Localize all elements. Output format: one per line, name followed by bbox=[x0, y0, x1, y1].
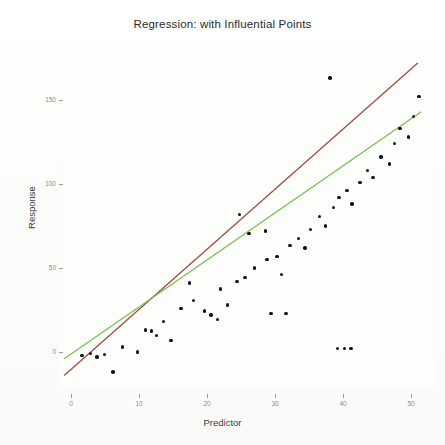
data-point bbox=[209, 313, 212, 316]
y-tick-label: 0 bbox=[26, 348, 56, 355]
x-tick-label: 20 bbox=[194, 400, 220, 407]
regression-line-ols-with-influential bbox=[64, 63, 418, 375]
data-point bbox=[111, 370, 114, 373]
y-tick-mark bbox=[59, 184, 63, 185]
x-tick-label: 40 bbox=[330, 400, 356, 407]
data-point bbox=[219, 287, 222, 290]
data-point bbox=[235, 280, 238, 283]
chart-figure: Regression: with Influential Points Resp… bbox=[0, 0, 445, 445]
data-point bbox=[95, 355, 98, 358]
data-point bbox=[388, 162, 391, 165]
y-tick-label: 150 bbox=[26, 96, 56, 103]
x-tick-label: 10 bbox=[126, 400, 152, 407]
regression-line-ols-robust bbox=[64, 112, 421, 359]
x-tick-mark bbox=[275, 394, 276, 398]
data-point bbox=[216, 318, 219, 321]
data-point bbox=[243, 276, 246, 279]
data-point bbox=[253, 266, 256, 269]
x-tick-mark bbox=[411, 394, 412, 398]
data-point bbox=[324, 224, 327, 227]
data-point bbox=[358, 181, 361, 184]
regression-lines bbox=[64, 63, 421, 375]
data-point bbox=[303, 246, 306, 249]
data-point bbox=[284, 312, 287, 315]
data-point bbox=[150, 329, 153, 332]
x-tick-mark bbox=[207, 394, 208, 398]
data-point bbox=[265, 258, 268, 261]
data-point bbox=[337, 196, 340, 199]
data-point bbox=[247, 232, 250, 235]
x-axis-label: Predictor bbox=[0, 417, 445, 428]
x-tick-label: 50 bbox=[398, 400, 424, 407]
data-point bbox=[309, 228, 312, 231]
data-point bbox=[136, 350, 139, 353]
y-tick-label: 50 bbox=[26, 264, 56, 271]
data-point bbox=[350, 202, 353, 205]
y-tick-label: 100 bbox=[26, 180, 56, 187]
data-point bbox=[203, 309, 206, 312]
data-point bbox=[328, 76, 331, 79]
data-point bbox=[398, 127, 401, 130]
data-point bbox=[80, 354, 83, 357]
plot-canvas bbox=[0, 0, 445, 445]
x-tick-label: 0 bbox=[58, 400, 84, 407]
y-axis-label: Response bbox=[26, 163, 37, 253]
data-point bbox=[275, 255, 278, 258]
data-point bbox=[379, 155, 382, 158]
y-tick-mark bbox=[59, 100, 63, 101]
data-point bbox=[179, 307, 182, 310]
data-point bbox=[269, 312, 272, 315]
data-point bbox=[169, 339, 172, 342]
data-point bbox=[226, 303, 229, 306]
x-tick-mark bbox=[71, 394, 72, 398]
data-point bbox=[371, 176, 374, 179]
data-point bbox=[188, 281, 191, 284]
y-tick-mark bbox=[59, 268, 63, 269]
x-tick-mark bbox=[139, 394, 140, 398]
data-point bbox=[288, 244, 291, 247]
x-tick-label: 30 bbox=[262, 400, 288, 407]
data-point bbox=[407, 135, 410, 138]
x-tick-mark bbox=[343, 394, 344, 398]
data-point bbox=[121, 345, 124, 348]
data-point bbox=[264, 229, 267, 232]
y-tick-mark bbox=[59, 352, 63, 353]
